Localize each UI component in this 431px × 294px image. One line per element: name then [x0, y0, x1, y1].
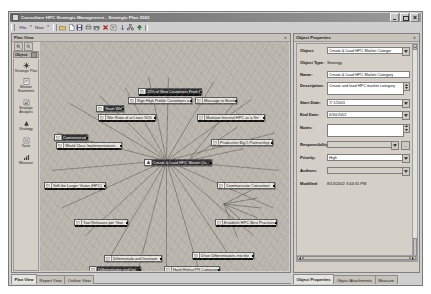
node-handle[interactable] [190, 100, 192, 102]
tab-object-attachments[interactable]: Object Attachments [333, 275, 376, 284]
end-date-input[interactable]: 6/30/2002 [327, 111, 403, 118]
zoom-in-icon[interactable] [14, 42, 23, 51]
diagram-node[interactable]: Establish HPC Best Practices [215, 219, 277, 226]
palette-item-mission-statement[interactable]: Mission Statement [14, 78, 38, 94]
name-input[interactable]: Create & Lead HPC Market Category [327, 71, 410, 78]
node-handle[interactable] [126, 222, 128, 224]
node-handle[interactable] [271, 142, 273, 144]
notes-textarea[interactable] [327, 124, 404, 137]
diagram-canvas[interactable]: Create & Lead HPC Market Ca 25% of New C… [40, 42, 289, 271]
properties-horizontal-scrollbar[interactable] [296, 255, 417, 261]
properties-icon[interactable] [110, 24, 118, 32]
responsibility-browse-button[interactable]: ... [401, 141, 410, 150]
node-handle[interactable] [160, 258, 162, 260]
palette-item-measure[interactable]: Measure [14, 153, 38, 165]
diagram-node[interactable]: World Class Implementations [56, 142, 122, 149]
tab-plan-view[interactable]: Plan View [11, 274, 37, 284]
delete-icon[interactable] [101, 24, 109, 32]
center-node-handle[interactable] [210, 162, 212, 164]
description-scrollbar[interactable] [403, 82, 410, 91]
properties-hscroll-thumb[interactable] [303, 256, 410, 260]
palette-item-tactic[interactable]: Tactic [14, 136, 38, 148]
palette-item-strategic-analysis[interactable]: Strategic Analysis [14, 99, 38, 115]
object-chevron-down-icon[interactable] [402, 47, 410, 56]
diagram-node[interactable]: 25% of New Customers From R [138, 88, 202, 95]
node-handle[interactable] [86, 137, 88, 139]
menu-file-chevron-down-icon[interactable]: ▾ [30, 25, 32, 28]
new-document-icon[interactable] [67, 24, 75, 32]
properties-vertical-scrollbar[interactable] [412, 43, 418, 262]
priority-chevron-down-icon[interactable] [402, 154, 410, 163]
node-handle[interactable] [273, 185, 275, 187]
palette-item-strategic-plan[interactable]: Strategic Plan [14, 61, 38, 73]
diagram-node[interactable]: Differentiate and Innovate [104, 255, 162, 262]
diagram-node[interactable]: Two Releases per Year [74, 219, 128, 226]
description-scroll-down-icon[interactable] [404, 86, 409, 90]
node-handle[interactable] [235, 100, 237, 102]
node-handle[interactable] [154, 117, 156, 119]
toolbar-grip[interactable] [53, 24, 57, 31]
diagram-node[interactable]: Drive Differentiators into the [192, 252, 254, 259]
minimize-button[interactable] [390, 13, 399, 22]
close-button[interactable] [410, 13, 419, 22]
palette-label-strategy: Strategy [14, 128, 38, 132]
object-properties-header: Object Properties × [294, 34, 419, 42]
diagram-node[interactable]: Win Ratio of at Least 50% [98, 114, 156, 121]
save-icon[interactable] [76, 24, 84, 32]
palette-item-strategy[interactable]: Strategy [14, 120, 38, 132]
open-folder-icon[interactable] [59, 24, 67, 32]
diagram-node[interactable]: Differentiation and Inn [89, 266, 141, 271]
node-handle[interactable] [252, 255, 254, 257]
notes-scroll-down-icon[interactable] [404, 128, 409, 132]
menu-grip[interactable] [11, 24, 15, 31]
diagram-node[interactable]: Sign High Profile Customers a [128, 97, 192, 104]
maximize-button[interactable] [400, 13, 409, 22]
tab-object-properties[interactable]: Object Properties [293, 274, 334, 284]
responsibility-chevron-down-icon[interactable] [391, 141, 399, 150]
tab-report-view[interactable]: Report View [36, 275, 65, 284]
diagram-node[interactable]: Productive Big 5 Partnership [211, 139, 273, 146]
authors-chevron-down-icon[interactable] [402, 167, 410, 176]
field-row-start-date: Start Date: 7/ 1/2001 [300, 99, 410, 108]
node-handle[interactable] [200, 91, 202, 93]
priority-combobox[interactable]: High [327, 154, 403, 161]
start-date-input[interactable]: 7/ 1/2001 [327, 99, 403, 106]
print-preview-icon[interactable] [84, 24, 92, 32]
node-handle[interactable] [120, 145, 122, 147]
plan-view-header: Plan View × [12, 34, 290, 42]
object-palette-pin-icon[interactable] [31, 52, 37, 58]
properties-scroll-right-icon[interactable] [410, 256, 416, 260]
menu-item-file[interactable]: File [18, 25, 28, 30]
diagram-center-node[interactable]: Create & Lead HPC Market Ca [144, 159, 212, 166]
description-textarea[interactable]: Create and lead HPC market category [327, 82, 404, 95]
responsibility-input[interactable] [327, 141, 392, 148]
node-handle[interactable] [122, 108, 124, 110]
menu-new-chevron-down-icon[interactable]: ▾ [47, 25, 49, 28]
print-icon[interactable] [93, 24, 101, 32]
start-date-chevron-down-icon[interactable] [402, 99, 410, 108]
diagram-node[interactable]: Sell the Larger Vision (HPC) [44, 182, 106, 189]
node-handle[interactable] [263, 117, 265, 119]
promote-icon[interactable] [135, 24, 143, 32]
diagram-node[interactable]: Team Well D [96, 105, 124, 112]
link-icon[interactable] [118, 24, 126, 32]
hierarchy-icon[interactable] [127, 24, 135, 32]
properties-scroll-up-icon[interactable] [413, 44, 417, 50]
tab-measure[interactable]: Measure [375, 275, 398, 284]
diagram-node[interactable]: Maintain Internal HPC as a Str [197, 114, 265, 121]
node-handle[interactable] [275, 222, 277, 224]
tab-outline-view[interactable]: Outline View [64, 275, 94, 284]
authors-input[interactable] [327, 167, 403, 174]
plan-view-close-icon[interactable]: × [283, 35, 288, 40]
node-handle[interactable] [139, 269, 141, 271]
diagram-node[interactable]: Communicate Consistent [217, 182, 275, 189]
node-handle[interactable] [104, 185, 106, 187]
zoom-out-icon[interactable] [24, 42, 33, 51]
diagram-node[interactable]: Message to Existing [195, 97, 237, 104]
object-properties-close-icon[interactable]: × [412, 35, 417, 40]
diagram-node[interactable]: Communicate [54, 134, 88, 141]
object-combobox[interactable]: Create & Lead HPC Market Categor [327, 47, 403, 54]
end-date-chevron-down-icon[interactable] [402, 111, 410, 120]
menu-item-new[interactable]: New [34, 25, 46, 30]
notes-scrollbar[interactable] [403, 124, 410, 133]
